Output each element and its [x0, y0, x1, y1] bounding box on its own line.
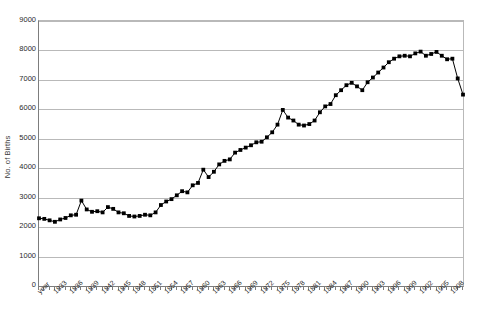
data-point-marker: [376, 71, 380, 75]
data-point-marker: [69, 213, 73, 217]
data-point-marker: [133, 215, 137, 219]
data-point-marker: [270, 130, 274, 134]
data-point-marker: [148, 213, 152, 217]
data-point-marker: [451, 57, 455, 61]
data-point-marker: [95, 209, 99, 213]
series-polyline: [39, 52, 463, 222]
data-point-marker: [461, 93, 465, 97]
data-point-marker: [339, 88, 343, 92]
data-point-marker: [207, 175, 211, 179]
data-point-marker: [398, 54, 402, 58]
data-point-marker: [180, 189, 184, 193]
data-point-marker: [233, 151, 237, 155]
data-point-marker: [350, 81, 354, 85]
data-point-marker: [424, 54, 428, 58]
data-point-marker: [249, 143, 253, 147]
data-point-marker: [239, 148, 243, 152]
data-point-marker: [117, 210, 121, 214]
data-point-marker: [74, 213, 78, 217]
data-point-marker: [419, 50, 423, 54]
data-point-marker: [170, 197, 174, 201]
data-point-marker: [408, 54, 412, 58]
data-point-marker: [445, 57, 449, 61]
data-point-marker: [127, 214, 131, 218]
y-axis-tick-label: 7000: [4, 75, 36, 83]
data-point-marker: [138, 214, 142, 218]
data-point-marker: [329, 102, 333, 106]
data-point-marker: [281, 108, 285, 112]
data-point-marker: [201, 168, 205, 172]
births-line-chart: No. of Births 90008000700060005000400030…: [0, 0, 483, 313]
y-axis-tick-label: 0: [4, 281, 36, 289]
data-point-marker: [159, 203, 163, 207]
data-point-marker: [175, 193, 179, 197]
data-point-marker: [122, 211, 126, 215]
data-point-marker: [276, 123, 280, 127]
data-point-marker: [435, 50, 439, 54]
data-point-marker: [37, 216, 41, 220]
data-point-marker: [58, 218, 62, 222]
data-point-marker: [260, 140, 264, 144]
data-point-marker: [355, 84, 359, 88]
data-point-marker: [228, 157, 232, 161]
data-point-marker: [64, 216, 68, 220]
data-point-marker: [307, 122, 311, 126]
y-axis-tick-label: 1000: [4, 252, 36, 260]
data-point-marker: [334, 93, 338, 97]
data-point-marker: [90, 210, 94, 214]
data-point-marker: [48, 218, 52, 222]
data-point-marker: [371, 76, 375, 80]
series-line: [39, 21, 463, 286]
y-axis-tick-label: 2000: [4, 222, 36, 230]
data-point-marker: [217, 162, 221, 166]
data-point-marker: [440, 54, 444, 58]
data-point-marker: [196, 181, 200, 185]
data-point-marker: [413, 51, 417, 55]
data-point-marker: [85, 208, 89, 212]
data-point-marker: [456, 77, 460, 81]
data-point-marker: [223, 159, 227, 163]
data-point-marker: [382, 66, 386, 70]
plot-area: [38, 20, 464, 287]
data-point-marker: [244, 146, 248, 150]
data-point-marker: [53, 220, 57, 224]
data-point-marker: [429, 52, 433, 56]
data-point-marker: [392, 57, 396, 61]
y-axis-tick-label: 9000: [4, 16, 36, 24]
data-point-marker: [154, 210, 158, 214]
data-point-marker: [318, 110, 322, 114]
data-point-marker: [212, 170, 216, 174]
y-axis-tick-label: 4000: [4, 163, 36, 171]
y-axis-tick-label: 3000: [4, 193, 36, 201]
data-point-marker: [403, 54, 407, 58]
data-point-marker: [80, 199, 84, 203]
data-point-marker: [297, 123, 301, 127]
data-point-marker: [313, 119, 317, 123]
data-point-marker: [345, 83, 349, 87]
y-axis-tick-label: 6000: [4, 104, 36, 112]
data-point-marker: [164, 200, 168, 204]
data-point-marker: [42, 217, 46, 221]
y-axis-tick-label: 5000: [4, 134, 36, 142]
data-point-marker: [292, 119, 296, 123]
data-point-marker: [366, 80, 370, 84]
data-point-marker: [302, 124, 306, 128]
data-point-marker: [387, 60, 391, 64]
data-point-marker: [143, 213, 147, 217]
data-point-marker: [186, 190, 190, 194]
data-point-marker: [101, 210, 105, 214]
data-point-marker: [111, 207, 115, 211]
y-axis-tick-label: 8000: [4, 45, 36, 53]
data-point-marker: [286, 116, 290, 120]
x-axis-tick-labels: year183318361839184218451848185118541857…: [0, 290, 483, 313]
data-point-marker: [106, 205, 110, 209]
y-axis-tick-labels: 9000800070006000500040003000200010000: [0, 0, 36, 313]
data-point-marker: [323, 104, 327, 108]
data-point-marker: [360, 88, 364, 92]
data-point-marker: [191, 183, 195, 187]
data-point-marker: [254, 140, 258, 144]
data-point-marker: [265, 135, 269, 139]
